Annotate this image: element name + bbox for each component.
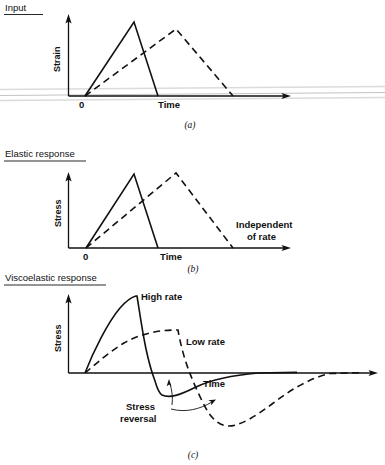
panel-a-origin-label: 0 — [79, 99, 84, 110]
panel-a-title: Input — [5, 2, 26, 13]
panel-a-x-axis-label: Time — [158, 99, 180, 110]
panel-a-caption: (a) — [184, 120, 195, 131]
panel-c-annotation-stress-reversal-line2: reversal — [120, 413, 156, 424]
panel-c: Viscoelastic response Stress Time High r… — [4, 272, 378, 461]
panel-c-caption: (c) — [188, 450, 199, 461]
stress-reversal-arrowhead-dashed — [208, 400, 216, 406]
stress-reversal-arrowhead-solid — [167, 379, 172, 386]
panel-c-title: Viscoelastic response — [5, 272, 97, 283]
panel-b-origin-label: 0 — [83, 251, 88, 262]
panel-a-y-axis-label: Strain — [52, 46, 62, 72]
panel-c-annotation-high-rate: High rate — [141, 291, 182, 302]
panel-b-annotation-independent-line2: of rate — [247, 231, 276, 242]
panel-b-curve-slow-rate — [86, 173, 233, 248]
panel-b-annotation-independent-line1: Independent — [236, 219, 293, 230]
panel-b-caption: (b) — [187, 264, 198, 275]
panel-c-y-axis-label: Stress — [53, 324, 63, 352]
panel-b-x-axis-label: Time — [160, 251, 182, 262]
panel-b: Elastic response Stress 0 Time Independe… — [4, 148, 293, 275]
panel-a: Input Strain 0 Time (a) — [4, 2, 291, 131]
panel-b-y-axis-label: Stress — [53, 199, 63, 227]
panel-c-annotation-low-rate: Low rate — [186, 336, 225, 347]
viscoelastic-response-figure: Input Strain 0 Time (a) Elastic response — [0, 0, 385, 465]
scan-artifact-lines — [0, 87, 385, 101]
panel-b-curve-fast-rate — [86, 174, 158, 248]
panel-c-annotation-stress-reversal-line1: Stress — [126, 401, 155, 412]
panel-b-title: Elastic response — [5, 148, 75, 159]
panel-a-curve-fast-rate — [85, 22, 158, 96]
